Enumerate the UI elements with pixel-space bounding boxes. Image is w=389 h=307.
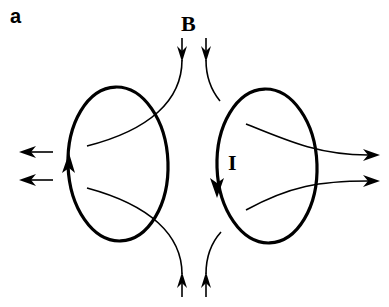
field-line-bottom-left xyxy=(87,188,187,297)
field-line-exit-right-lower xyxy=(246,175,380,210)
field-line-top-right xyxy=(201,38,220,101)
field-line-bottom-right xyxy=(201,232,221,297)
field-label-b: B xyxy=(181,11,196,36)
field-line-exit-left-lower xyxy=(19,174,53,186)
magnetic-loops-diagram: a B I xyxy=(0,0,389,307)
panel-label: a xyxy=(10,5,22,27)
right-current-loop xyxy=(210,87,320,244)
field-line-exit-left-upper xyxy=(19,146,53,158)
current-label-i: I xyxy=(228,150,237,175)
